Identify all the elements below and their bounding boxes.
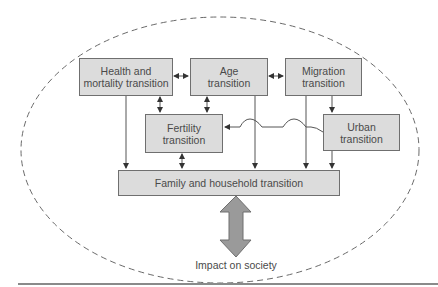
arrow-urban-fertility (225, 119, 323, 132)
impact-on-society-label: Impact on society (186, 259, 286, 271)
bottom-rule (18, 283, 438, 285)
box-age-line1: Age (208, 65, 251, 77)
box-health-line1: Health and (83, 65, 168, 77)
box-urban-line1: Urban (340, 121, 383, 133)
box-fertility-line2: transition (163, 134, 206, 146)
box-urban-line2: transition (340, 133, 383, 145)
box-migration: Migrationtransition (285, 58, 362, 96)
box-age: Agetransition (190, 58, 268, 96)
box-health-line2: mortality transition (83, 77, 168, 89)
box-age-line2: transition (208, 77, 251, 89)
box-migration-line2: transition (302, 77, 345, 89)
box-family-household: Family and household transition (118, 170, 340, 196)
box-fertility-line1: Fertility (163, 122, 206, 134)
box-urban: Urbantransition (323, 114, 400, 151)
box-fertility: Fertilitytransition (145, 114, 223, 153)
box-health-mortality: Health andmortality transition (79, 58, 173, 96)
box-family-label: Family and household transition (155, 177, 303, 189)
impact-double-arrow-icon (220, 196, 251, 257)
box-migration-line1: Migration (302, 65, 345, 77)
